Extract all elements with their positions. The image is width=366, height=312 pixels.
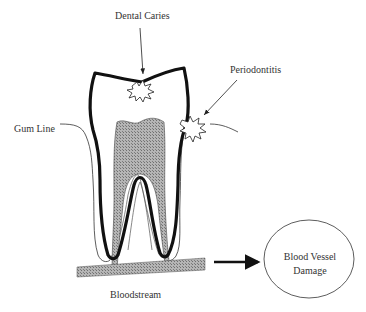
dental-caries-label: Dental Caries <box>115 10 170 21</box>
bloodstream-label: Bloodstream <box>110 289 161 300</box>
periodontitis-arrow <box>204 80 237 115</box>
periodontitis-burst-icon <box>180 116 206 142</box>
periodontitis-label: Periodontitis <box>230 64 281 75</box>
gum-line-label: Gum Line <box>14 123 55 134</box>
caries-burst-icon <box>127 80 154 102</box>
caries-arrow <box>140 28 143 74</box>
outcome-line-1: Blood Vessel <box>262 250 358 264</box>
bloodstream-bar <box>77 258 205 277</box>
blood-vessel-damage-label: Blood Vessel Damage <box>262 250 358 278</box>
outcome-line-2: Damage <box>262 264 358 278</box>
